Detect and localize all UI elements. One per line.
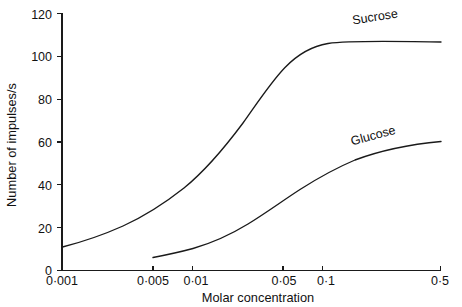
series-label-glucose: Glucose xyxy=(349,123,397,148)
x-tick-label-0-01: 0·01 xyxy=(183,274,208,288)
x-tick-label-0-05: 0·05 xyxy=(271,274,296,288)
y-tick-marks xyxy=(57,14,62,271)
x-tick-labels: 0·001 0·005 0·01 0·05 0·1 0·5 xyxy=(46,274,449,288)
y-tick-label-100: 100 xyxy=(31,50,52,64)
y-tick-label-60: 60 xyxy=(38,136,52,150)
y-axis-title: Number of impulses/s xyxy=(4,83,19,207)
y-tick-label-120: 120 xyxy=(31,8,52,22)
curve-glucose xyxy=(153,142,441,258)
x-tick-label-0-5: 0·5 xyxy=(431,274,449,288)
x-tick-marks xyxy=(63,266,441,271)
axes-group xyxy=(62,13,441,271)
chart-canvas: 120 100 80 60 40 20 0 0·001 0·005 0·01 0… xyxy=(0,0,462,307)
x-tick-label-0-005: 0·005 xyxy=(137,274,169,288)
chart-figure: 120 100 80 60 40 20 0 0·001 0·005 0·01 0… xyxy=(0,0,462,307)
x-tick-label-0-001: 0·001 xyxy=(46,274,78,288)
y-tick-label-20: 20 xyxy=(38,222,52,236)
x-tick-label-0-1: 0·1 xyxy=(317,274,335,288)
curve-sucrose xyxy=(63,41,442,247)
series-label-sucrose: Sucrose xyxy=(351,6,399,27)
y-tick-label-80: 80 xyxy=(38,93,52,107)
x-axis-title: Molar concentration xyxy=(202,290,314,305)
y-tick-labels: 120 100 80 60 40 20 0 xyxy=(31,8,52,279)
y-tick-label-40: 40 xyxy=(38,179,52,193)
